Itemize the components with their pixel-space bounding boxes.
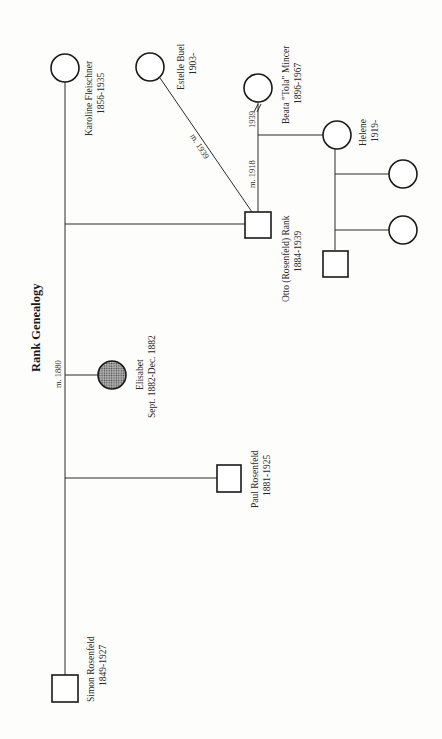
person-helene: [323, 121, 351, 149]
genealogy-diagram: Rank Genealogy m. 1880 Karoline Fleischn…: [0, 0, 442, 739]
person-grandchild-2: [389, 216, 417, 244]
beata-name: Beata "Tola" Mincer: [281, 45, 291, 124]
estelle-name: Estelle Buel: [176, 43, 186, 90]
otto-name: Otto (Rosenfeld) Rank: [281, 215, 292, 302]
paul-dates: 1881-1925: [262, 455, 272, 496]
marriage-label-otto-beata: m. 1918: [247, 160, 257, 188]
simon-name: Simon Rosenfeld: [86, 636, 96, 702]
elisabet-name: Elisabet: [135, 359, 145, 390]
person-paul-rosenfeld: [217, 465, 241, 492]
person-beata-mincer: [244, 74, 272, 102]
person-otto-rank: [245, 212, 271, 238]
karoline-dates: 1856-1935: [96, 73, 106, 114]
person-simon-rosenfeld: [52, 675, 78, 702]
otto-dates: 1884-1939: [293, 231, 303, 272]
paul-name: Paul Rosenfeld: [250, 450, 260, 508]
marriage-label-simon-karoline: m. 1880: [53, 360, 63, 388]
simon-dates: 1849-1927: [98, 645, 108, 686]
elisabet-dates: Sept. 1882-Dec. 1882: [147, 335, 157, 418]
person-grandchild-1: [389, 160, 417, 188]
person-elisabet-deceased: [98, 361, 126, 389]
helene-dates: 1919-: [370, 120, 380, 142]
divorce-year-otto-beata: 1939: [247, 111, 257, 128]
person-karoline-fleischner: [51, 54, 79, 82]
marriage-label-otto-estelle: m. 1939: [188, 132, 211, 161]
person-grandchild-3: [323, 251, 348, 277]
diagram-title: Rank Genealogy: [29, 283, 43, 372]
person-estelle-buel: [136, 53, 164, 81]
helene-name: Helene: [358, 119, 368, 146]
karoline-name: Karoline Fleischner: [84, 60, 94, 136]
beata-dates: 1896-1967: [293, 63, 303, 104]
estelle-dates: 1903-: [188, 53, 198, 75]
